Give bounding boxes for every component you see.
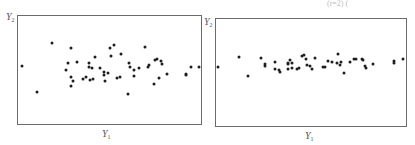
scatter-point (119, 76, 122, 79)
scatter-point (21, 65, 24, 68)
scatter-point (303, 54, 306, 57)
scatter-point (158, 77, 161, 80)
scatter-point (148, 64, 151, 67)
scatter-point (89, 79, 92, 82)
scatter-point (144, 46, 147, 49)
scatter-point (133, 75, 136, 78)
left-scatter-points (21, 42, 201, 96)
scatter-point (104, 80, 107, 83)
scatter-point (76, 61, 79, 64)
scatter-point (110, 55, 113, 58)
scatter-point (247, 75, 250, 78)
scatter-point (161, 63, 164, 66)
scatter-point (94, 56, 97, 59)
scatter-point (279, 71, 282, 74)
scatter-point (70, 85, 73, 88)
scatter-point (166, 73, 169, 76)
scatter-point (314, 57, 317, 60)
scatter-point (127, 93, 130, 96)
scatter-point (289, 59, 292, 62)
scatter-point (190, 66, 193, 69)
scatter-point (306, 64, 309, 67)
scatter-point (311, 68, 314, 71)
scatter-point (274, 61, 277, 64)
scatter-point (88, 62, 91, 65)
scatter-point (340, 61, 343, 64)
scatter-point (331, 61, 334, 64)
scatter-point (339, 64, 342, 67)
scatter-point (116, 77, 119, 80)
scatter-point (109, 47, 112, 50)
scatter-point (298, 67, 301, 70)
scatter-point (156, 58, 159, 61)
scatter-point (91, 67, 94, 70)
scatter-point (309, 65, 312, 68)
scatter-point (349, 61, 352, 64)
scatter-point (85, 76, 88, 79)
scatter-point (362, 59, 365, 62)
scatter-point (343, 72, 346, 75)
scatter-point (264, 65, 267, 68)
scatter-point (402, 58, 405, 61)
scatter-point (82, 78, 85, 81)
scatter-point (217, 66, 220, 69)
scatter-point (153, 83, 156, 86)
scatter-point (99, 67, 102, 70)
scatter-figure: (r=2) ( Y2 Y1 Y2 Y1 (0, 0, 415, 145)
scatter-point (67, 62, 70, 65)
scatter-point (291, 67, 294, 70)
scatter-point (160, 60, 163, 63)
scatter-point (107, 72, 110, 75)
scatter-point (291, 62, 294, 65)
scatter-point (70, 76, 73, 79)
scatter-point (238, 56, 241, 59)
right-x-axis-label: Y1 (305, 131, 314, 142)
scatter-point (133, 69, 136, 72)
scatter-point (287, 68, 290, 71)
right-scatter-panel (216, 19, 407, 127)
scatter-point (336, 62, 339, 65)
scatter-point (287, 63, 290, 66)
scatter-point (103, 71, 106, 74)
scatter-point (327, 60, 330, 63)
scatter-point (129, 66, 132, 69)
left-x-axis-label: Y1 (102, 129, 111, 140)
scatter-point (92, 78, 95, 81)
scatter-point (198, 66, 201, 69)
scatter-point (185, 74, 188, 77)
scatter-point (365, 67, 368, 70)
scatter-point (138, 67, 141, 70)
scatter-point (88, 66, 91, 69)
scatter-point (72, 80, 75, 83)
scatter-point (65, 69, 68, 72)
left-scatter-panel (18, 16, 202, 125)
scatter-point (324, 66, 327, 69)
scatter-point (305, 58, 308, 61)
scatter-point (393, 60, 396, 63)
scatter-point (103, 74, 106, 77)
scatter-point (113, 44, 116, 47)
scatter-point (372, 63, 375, 66)
right-scatter-points (217, 53, 405, 78)
scatter-point (260, 57, 263, 60)
right-y-axis-label: Y2 (204, 17, 213, 28)
right-plot-frame (216, 19, 407, 127)
scatter-point (337, 53, 340, 56)
left-y-axis-label: Y2 (6, 12, 15, 23)
scatter-point (120, 53, 123, 56)
scatter-point (36, 91, 39, 94)
scatter-point (70, 47, 73, 50)
left-plot-frame (18, 16, 202, 125)
scatter-point (274, 68, 277, 71)
scatter-point (128, 62, 131, 65)
scatter-point (51, 42, 54, 45)
scatter-point (355, 58, 358, 61)
